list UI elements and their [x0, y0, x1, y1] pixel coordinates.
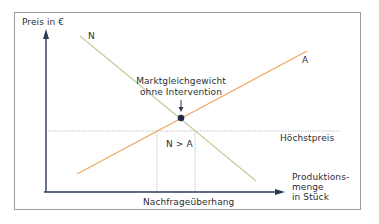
gap-label: N > A [166, 139, 193, 150]
demand-curve [80, 36, 256, 181]
x-axis-label-line3: in Stück [292, 192, 329, 203]
equilibrium-dot [178, 115, 185, 122]
y-axis-arrow-icon [43, 29, 49, 39]
equilibrium-label-line2: ohne Intervention [130, 87, 232, 98]
equilibrium-arrow-icon [179, 107, 184, 112]
demand-curve-label: N [88, 31, 95, 42]
supply-curve-label: A [302, 55, 308, 66]
supply-curve [77, 51, 307, 174]
price-ceiling-label: Höchstpreis [280, 133, 334, 144]
equilibrium-label-line1: Marktgleichgewicht [130, 76, 232, 87]
x-axis-arrow-icon [275, 189, 285, 195]
shortage-label: Nachfrageüberhang [143, 197, 234, 208]
y-axis-label: Preis in € [22, 17, 64, 28]
